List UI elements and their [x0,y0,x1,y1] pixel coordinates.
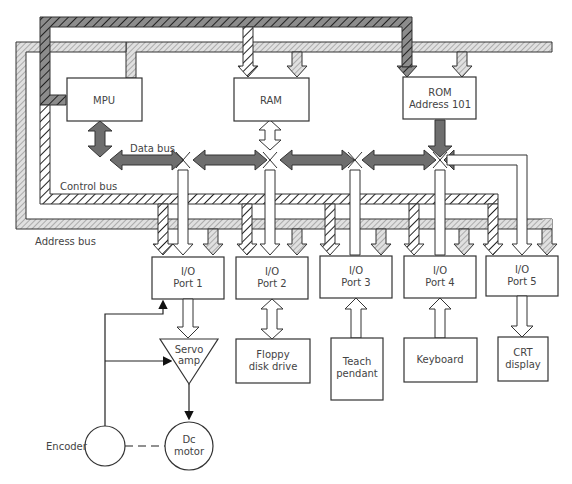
peripheral-connections [177,296,533,339]
svg-text:Servo: Servo [175,344,204,355]
svg-text:Encoder: Encoder [46,441,88,452]
svg-text:ROM: ROM [428,87,451,98]
svg-text:Port 3: Port 3 [341,277,370,288]
svg-text:disk drive: disk drive [249,361,298,372]
ram-block: RAM [234,78,309,121]
svg-text:Port 4: Port 4 [425,277,454,288]
svg-text:I/O: I/O [515,264,529,275]
svg-text:Address 101: Address 101 [409,99,471,110]
svg-text:Dc: Dc [182,434,195,445]
svg-text:Port 2: Port 2 [257,278,286,289]
dc-motor: Dc motor [165,422,213,470]
svg-text:Keyboard: Keyboard [416,354,463,365]
io-port-4: I/O Port 4 [404,256,476,298]
diagram-canvas: MPU RAM ROM Address 101 Data bus Control… [0,0,572,484]
io-port-3: I/O Port 3 [320,256,392,298]
svg-text:Port 1: Port 1 [173,278,202,289]
crt-display: CRT display [498,337,548,381]
io-port-5: I/O Port 5 [486,256,558,296]
io-port-2: I/O Port 2 [236,257,308,299]
rom-block: ROM Address 101 [403,77,476,119]
svg-text:I/O: I/O [349,265,363,276]
svg-text:MPU: MPU [93,95,115,106]
io-port-1: I/O Port 1 [152,257,224,299]
svg-text:pendant: pendant [336,368,378,379]
keyboard: Keyboard [404,338,477,382]
svg-text:motor: motor [174,446,205,457]
teach-pendant: Teach pendant [331,338,383,400]
address-bus-label: Address bus [35,236,96,247]
address-bus-branches [203,229,557,255]
svg-text:I/O: I/O [433,265,447,276]
svg-text:amp: amp [178,355,200,366]
data-bus-label: Data bus [130,143,175,154]
svg-text:Teach: Teach [342,356,372,367]
mpu-block: MPU [67,78,142,121]
svg-text:Floppy: Floppy [256,349,289,360]
feedback-loop [105,302,189,446]
svg-text:I/O: I/O [265,266,279,277]
svg-text:CRT: CRT [513,347,533,358]
svg-text:RAM: RAM [260,95,282,106]
svg-text:I/O: I/O [181,266,195,277]
floppy-disk-drive: Floppy disk drive [236,339,310,383]
control-bus-label: Control bus [60,181,117,192]
encoder: Encoder [46,426,125,466]
svg-text:Port 5: Port 5 [507,276,536,287]
svg-text:display: display [505,359,541,370]
